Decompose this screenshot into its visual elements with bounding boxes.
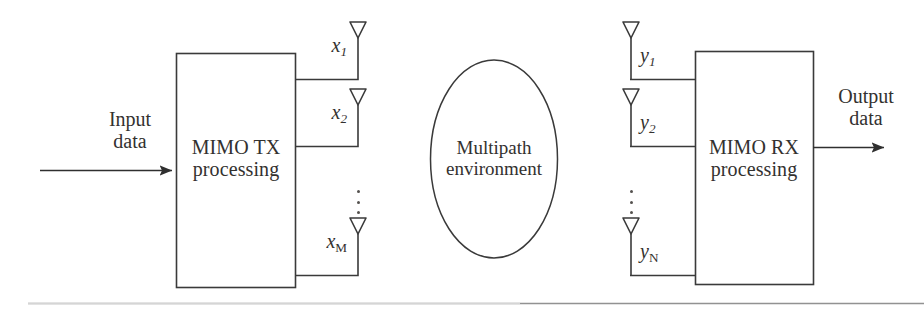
tx-signal-index-2: 2: [340, 111, 347, 126]
input-data-label-line2: data: [70, 130, 190, 152]
mimo-tx-label-line2: processing: [176, 158, 296, 180]
rx-signal-label-n: yN: [640, 240, 684, 265]
multipath-label-line1: Multipath: [424, 137, 564, 158]
rx-signal-symbol-2: y: [640, 111, 649, 133]
output-data-label: Output data: [810, 85, 922, 130]
rx-antenna-ellipsis: [628, 190, 634, 214]
tx-signal-label-2: x2: [313, 101, 347, 126]
rx-signal-index-2: 2: [649, 121, 656, 136]
tx-antenna-ellipsis: [355, 190, 361, 214]
tx-signal-label-m: xM: [303, 230, 347, 255]
rx-signal-symbol-1: y: [640, 44, 649, 66]
rx-antenna-icon-n: [623, 218, 639, 234]
tx-signal-index-1: 1: [340, 44, 347, 59]
mimo-rx-label-line2: processing: [695, 158, 813, 180]
input-data-label: Input data: [70, 108, 190, 153]
tx-antenna-icon-m: [350, 218, 366, 234]
mimo-rx-label-line1: MIMO RX: [695, 136, 813, 158]
rx-signal-index-n: N: [649, 250, 659, 265]
rx-signal-index-1: 1: [649, 54, 656, 69]
tx-signal-symbol-m: x: [326, 230, 335, 252]
rx-antenna-icon-2: [623, 89, 639, 105]
mimo-tx-label-line1: MIMO TX: [176, 136, 296, 158]
output-data-label-line2: data: [810, 107, 922, 129]
rx-antenna-icon-1: [623, 22, 639, 38]
multipath-label-line2: environment: [424, 158, 564, 179]
tx-antenna-icon-2: [350, 89, 366, 105]
mimo-rx-block-label: MIMO RX processing: [695, 136, 813, 181]
mimo-system-diagram: Input data MIMO TX processing x1 x2 xM M…: [0, 0, 924, 315]
rx-signal-label-1: y1: [640, 44, 674, 69]
rx-signal-symbol-n: y: [640, 240, 649, 262]
tx-signal-index-m: M: [335, 240, 347, 255]
mimo-tx-block-label: MIMO TX processing: [176, 136, 296, 181]
rx-signal-label-2: y2: [640, 111, 674, 136]
tx-antenna-icon-1: [350, 22, 366, 38]
output-data-label-line1: Output: [810, 85, 922, 107]
tx-signal-label-1: x1: [313, 34, 347, 59]
input-data-label-line1: Input: [70, 108, 190, 130]
multipath-environment-label: Multipath environment: [424, 137, 564, 180]
